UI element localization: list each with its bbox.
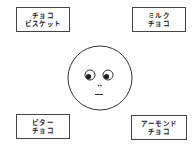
face-icon (66, 44, 134, 112)
option-label-line1: アーモンド (141, 120, 178, 128)
option-label-line1: チョコ (32, 12, 54, 20)
left-eye-icon (85, 70, 95, 80)
option-label-line2: ビスケット (25, 20, 62, 28)
option-box-milk-choco[interactable]: ミルク チョコ (132, 7, 186, 32)
option-label-line1: ビター (32, 119, 54, 127)
option-label-line2: チョコ (148, 20, 170, 28)
option-box-bitter-choco[interactable]: ビター チョコ (16, 114, 70, 139)
option-box-choco-biscuit[interactable]: チョコ ビスケット (16, 7, 70, 32)
option-label-line2: チョコ (32, 127, 54, 135)
option-label-line1: ミルク (148, 12, 170, 20)
face-outline (68, 46, 132, 110)
option-label-line2: チョコ (148, 128, 170, 136)
option-box-almond-choco[interactable]: アーモンド チョコ (131, 115, 187, 140)
right-eye-icon (103, 70, 113, 80)
